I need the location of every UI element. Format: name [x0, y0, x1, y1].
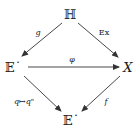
arrow-g	[22, 23, 62, 56]
node-e-dot-left: 𝔼˙	[5, 60, 21, 75]
node-h: ℍ	[64, 7, 76, 22]
node-e-dot-bottom: 𝔼˙	[63, 113, 79, 128]
label-g: g	[35, 28, 40, 37]
label-f: f	[105, 97, 108, 106]
node-x: X	[123, 60, 132, 75]
arrow-f	[82, 76, 120, 111]
label-phi: φ	[69, 55, 75, 64]
commutative-diagram: ℍ 𝔼˙ X 𝔼˙ g Ex φ q↦qⁿ f	[0, 0, 140, 132]
arrow-power	[24, 76, 61, 111]
label-power-map: q↦qⁿ	[14, 97, 34, 106]
label-ex: Ex	[99, 28, 109, 37]
